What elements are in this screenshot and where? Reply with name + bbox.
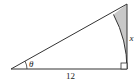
shaded-region xyxy=(114,4,128,69)
angle-label: θ xyxy=(29,59,34,69)
right-angle-marker xyxy=(121,63,127,69)
vertical-side-label: x xyxy=(129,33,134,43)
right-triangle-diagram: θ 12 x xyxy=(0,0,139,81)
angle-arc xyxy=(25,61,27,69)
base-label: 12 xyxy=(66,71,75,81)
